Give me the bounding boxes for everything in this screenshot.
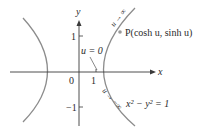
u-zero-label: u = 0 [81,45,103,56]
u-zero-pointer [90,57,97,70]
x-axis-label: x [157,66,163,77]
tick-label-x-one: 1 [91,75,96,86]
tick-label-y-one: 1 [71,31,76,42]
point-p-label: P(cosh u, sinh u) [125,27,192,39]
equation-label: x² − y² = 1 [125,98,169,109]
hyperbola-left-branch [23,18,48,122]
tick-label-origin: 0 [69,75,74,86]
u-to-neg-infinity-label: u → −∞ [101,86,125,111]
y-axis-arrow-icon [77,20,82,26]
x-axis-arrow-icon [150,70,156,75]
tick-label-y-neg-one: −1 [66,102,77,113]
y-axis-label: y [75,6,81,17]
hyperbola-figure: y x 0 1 1 −1 u = 0 P(cosh u, sinh u) u →… [0,0,203,131]
point-p-marker [118,30,122,34]
u-to-infinity-label: u → ∞ [108,6,128,28]
